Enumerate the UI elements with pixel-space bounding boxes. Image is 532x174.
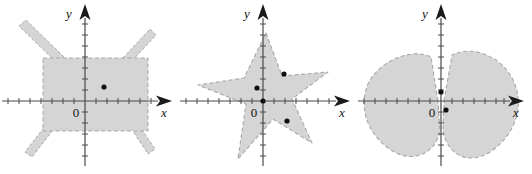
y-axis-arrowhead bbox=[436, 4, 447, 20]
panel-five-pointed-star: y x 0 bbox=[178, 0, 358, 174]
three-region-figure: y x 0 bbox=[0, 0, 532, 174]
y-axis-label: y bbox=[242, 6, 250, 21]
shaded-rectangle bbox=[43, 58, 148, 131]
interior-point bbox=[438, 89, 443, 94]
interior-point bbox=[101, 84, 106, 89]
shaded-lobe-right bbox=[443, 51, 518, 158]
panel-two-lobed-cleft-region: y x 0 bbox=[356, 0, 532, 174]
interior-point bbox=[284, 118, 289, 123]
spike-upper-left bbox=[19, 20, 64, 63]
origin-point bbox=[260, 98, 265, 103]
panel-rectangle-with-spikes: y x 0 bbox=[0, 0, 180, 174]
interior-point bbox=[281, 71, 286, 76]
region-rectangle-with-spikes bbox=[19, 20, 156, 157]
x-axis-label: x bbox=[512, 105, 519, 120]
x-axis-label: x bbox=[160, 105, 167, 120]
interior-point bbox=[443, 107, 448, 112]
origin-label: 0 bbox=[73, 105, 80, 120]
y-axis-arrowhead bbox=[80, 4, 91, 20]
origin-label: 0 bbox=[429, 105, 436, 120]
y-axis-label: y bbox=[420, 6, 428, 21]
x-axis-label: x bbox=[338, 105, 345, 120]
y-axis-label: y bbox=[64, 6, 72, 21]
y-axis-arrowhead bbox=[258, 4, 269, 20]
origin-label: 0 bbox=[251, 105, 258, 120]
interior-point bbox=[254, 85, 259, 90]
